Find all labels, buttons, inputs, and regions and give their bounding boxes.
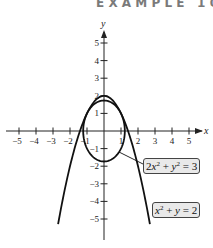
x-tick-label: 3 <box>153 136 158 146</box>
y-axis-label: y <box>100 18 106 29</box>
rhs: = 3 <box>180 160 197 172</box>
x-tick-label: 2 <box>136 136 141 146</box>
x-tick-label: −3 <box>46 136 56 146</box>
y-tick-label: −1 <box>89 144 99 154</box>
x-tick-label: 5 <box>187 136 192 146</box>
x-tick-label: −5 <box>12 136 22 146</box>
ellipse-equation-label: 2x2 + y2 = 3 <box>143 158 200 174</box>
x-axis-label: x <box>203 125 209 136</box>
ellipse-leader-line <box>119 152 143 164</box>
y-tick-label: −2 <box>89 161 99 171</box>
plus: + <box>160 160 172 172</box>
y-axis-arrow-icon <box>101 30 107 38</box>
x-tick-label: 4 <box>170 136 175 146</box>
x-tick-label: −4 <box>29 136 39 146</box>
y-tick-label: 4 <box>95 56 100 66</box>
y-tick-label: −3 <box>89 179 99 189</box>
y-tick-label: 5 <box>95 38 100 48</box>
y-tick-label: 3 <box>95 73 100 83</box>
y-tick-label: −5 <box>89 214 99 224</box>
rhs: = 2 <box>180 204 197 216</box>
parabola-equation-label: x2 + y = 2 <box>152 202 200 218</box>
y-tick-label: 1 <box>95 108 100 118</box>
x-tick-label: −2 <box>63 136 73 146</box>
x-axis-arrow-icon <box>195 128 203 134</box>
plus: + <box>163 204 175 216</box>
y-tick-label: −4 <box>89 196 99 206</box>
